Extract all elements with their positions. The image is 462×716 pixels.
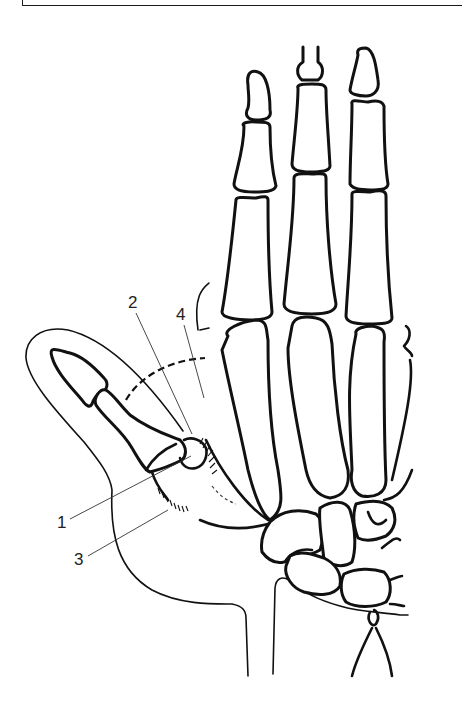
leader-line-1: [70, 456, 191, 519]
middle-finger: [284, 47, 348, 498]
carpal-bones: [261, 501, 404, 606]
leader-line-2: [136, 313, 192, 434]
leader-line-4: [184, 325, 204, 398]
label-3: 3: [74, 550, 83, 569]
forearm-bones: [352, 610, 392, 676]
label-4: 4: [176, 305, 185, 324]
label-1: 1: [57, 513, 66, 532]
thumb-bones: [51, 349, 185, 472]
leader-line-3: [88, 510, 168, 556]
label-2: 2: [128, 293, 137, 312]
index-finger: [222, 71, 281, 520]
ring-finger: [346, 48, 392, 496]
swelling-boundary-dashed: [126, 358, 205, 400]
little-finger-partial: [384, 326, 412, 500]
